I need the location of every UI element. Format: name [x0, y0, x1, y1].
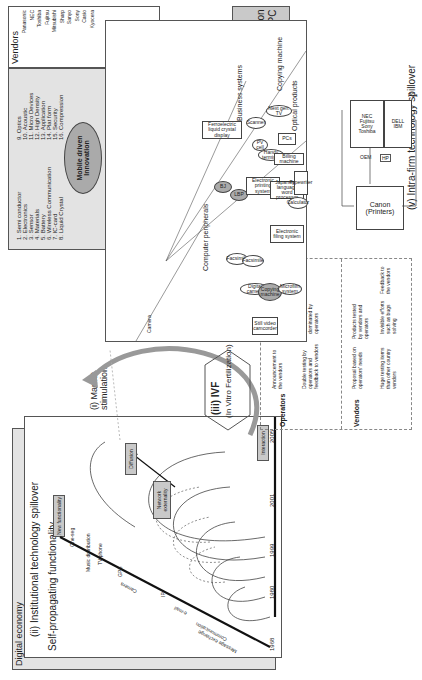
node-next-gen-tv: Next gen. TV: [266, 105, 292, 117]
node-bj: BJ: [214, 181, 232, 193]
node-billing-machine: Billing machine: [274, 153, 304, 165]
node-scanner: Scanner: [246, 117, 266, 129]
intra-firm-network: Copying machine Business systems Optical…: [105, 20, 307, 342]
node-electronic-filing: Electronic filing system: [270, 225, 304, 243]
node-flcd: Ferroelectric liquid crystal display: [202, 121, 242, 139]
node-typewriter: Typewriter: [294, 171, 308, 195]
node-microfilm: Microfilm system: [278, 283, 302, 295]
node-pcs: PCs: [278, 133, 296, 145]
pc-canon-arrows: [340, 90, 420, 250]
node-still-video: Still video camcorder: [252, 317, 278, 335]
node-calculator: Calculator: [288, 197, 308, 209]
node-facsimile-2: Facsimile: [242, 255, 264, 267]
pc-canon-diagram: NEC Fujitsu Sony Toshiba DELL IBM PCs OE…: [340, 90, 420, 250]
